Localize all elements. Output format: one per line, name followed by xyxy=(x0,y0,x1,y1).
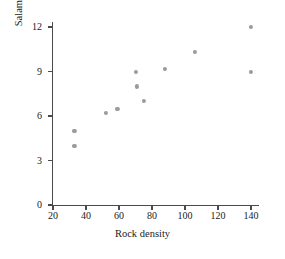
y-tick-6 xyxy=(48,115,53,116)
scatter-plot-figure: 036912 20406080100120140 Rock density Sa… xyxy=(0,0,285,259)
data-point xyxy=(72,144,76,148)
y-tick-label-6: 6 xyxy=(18,111,42,121)
x-tick-label-60: 60 xyxy=(104,211,134,221)
data-point xyxy=(193,50,197,54)
data-point xyxy=(135,84,139,88)
y-tick-9 xyxy=(48,71,53,72)
y-axis-line xyxy=(52,22,53,206)
data-point xyxy=(249,25,253,29)
x-tick-label-80: 80 xyxy=(137,211,167,221)
x-tick-label-100: 100 xyxy=(170,211,200,221)
x-axis-title: Rock density xyxy=(0,228,285,239)
x-tick-label-120: 120 xyxy=(203,211,233,221)
y-tick-3 xyxy=(48,160,53,161)
y-tick-label-9: 9 xyxy=(18,67,42,77)
y-tick-label-0: 0 xyxy=(18,200,42,210)
data-point xyxy=(163,66,167,70)
x-tick-label-20: 20 xyxy=(38,211,68,221)
x-tick-label-140: 140 xyxy=(236,211,266,221)
y-axis-title: Salamander density xyxy=(13,0,24,50)
plot-area: 036912 20406080100120140 xyxy=(0,0,285,259)
y-tick-12 xyxy=(48,26,53,27)
data-point xyxy=(104,111,108,115)
data-point xyxy=(115,106,119,110)
x-axis-line xyxy=(52,205,259,206)
data-point xyxy=(72,129,76,133)
data-point xyxy=(249,69,253,73)
y-tick-label-3: 3 xyxy=(18,156,42,166)
data-point xyxy=(142,99,146,103)
data-point xyxy=(133,69,137,73)
x-tick-label-40: 40 xyxy=(71,211,101,221)
